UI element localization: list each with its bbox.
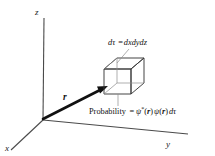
z-axis-label: z xyxy=(34,7,39,17)
probability-equals: = xyxy=(129,107,134,116)
probability-dtau: dτ xyxy=(169,107,177,116)
coordinate-system-diagram: z y x r xyxy=(0,0,215,156)
y-axis-label: y xyxy=(165,139,170,149)
volume-element-annotation: dτ=dxdydz xyxy=(108,38,148,47)
dtau-equals-glyph: = xyxy=(118,38,123,47)
probability-annotation: Probability=ψ*(r)ψ(r)dτ xyxy=(89,106,177,116)
cube-right-face xyxy=(131,58,144,94)
axes-group xyxy=(11,18,188,150)
psi-close-paren-1: ) xyxy=(150,107,153,116)
volume-element-cube xyxy=(104,58,144,94)
x-axis-line xyxy=(11,120,43,150)
physics-diagram-figure: z y x r xyxy=(0,0,215,156)
z-axis-line xyxy=(43,18,44,120)
dtau-tau-glyph: τ xyxy=(112,38,116,47)
probability-word: Probability xyxy=(89,107,127,116)
psi-close-paren-2: ) xyxy=(165,107,168,116)
dtau-expression-glyph: dxdydz xyxy=(124,38,148,47)
position-vector-label: r xyxy=(63,92,67,102)
y-axis-line xyxy=(43,120,188,134)
leader-line-dtau xyxy=(117,49,129,63)
x-axis-label: x xyxy=(4,143,9,153)
